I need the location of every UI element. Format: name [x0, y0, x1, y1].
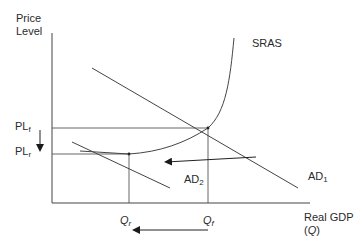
sras-label: SRAS [252, 37, 282, 50]
demand-shift-arrow [166, 157, 256, 162]
plr-label: PLr [15, 145, 31, 158]
x-axis-label-line1: Real GDP [304, 211, 354, 224]
ad1-label: AD1 [308, 170, 328, 183]
x-axis-label: Real GDP (Q) [304, 211, 354, 237]
ad2-curve [72, 142, 170, 188]
x-axis-label-line2: (Q) [304, 224, 354, 237]
plf-label: PLf [15, 120, 31, 133]
y-axis-label: Price Level [16, 12, 42, 38]
qr-label: Qr [120, 214, 131, 227]
equilibrium-point-new [128, 153, 131, 156]
y-axis-label-line2: Level [16, 25, 42, 38]
as-ad-diagram [0, 0, 362, 246]
sras-curve [80, 38, 234, 154]
y-axis-label-line1: Price [16, 12, 42, 25]
ad2-label: AD2 [184, 173, 204, 186]
equilibrium-point-initial [207, 127, 210, 130]
qf-label: Qf [203, 214, 214, 227]
